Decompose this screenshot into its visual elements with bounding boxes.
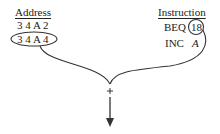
curve-from-operand — [110, 30, 206, 84]
operand-highlight-circle — [189, 20, 204, 35]
arrow-down-icon — [106, 97, 114, 127]
curve-from-address — [40, 46, 110, 84]
connector-graphics — [0, 0, 220, 134]
address-highlight-ellipse — [11, 32, 57, 46]
plus-symbol-icon — [107, 88, 113, 94]
